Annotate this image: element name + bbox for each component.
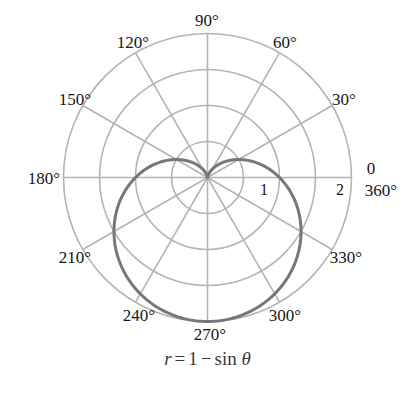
- angle-label-30deg: 30°: [332, 91, 356, 108]
- radial-label-1: 1: [260, 182, 268, 198]
- angle-label-90deg: 90°: [195, 12, 219, 29]
- grid-spoke-240: [136, 178, 208, 303]
- angle-label-60deg: 60°: [273, 34, 297, 51]
- equation-theta: θ: [241, 348, 250, 369]
- angle-label-120deg: 120°: [117, 34, 149, 51]
- grid-spoke-150: [83, 106, 208, 178]
- equation-minus: −: [198, 348, 215, 369]
- grid-spoke-210: [83, 178, 208, 250]
- grid-spoke-300: [208, 178, 280, 303]
- angle-label-330deg: 330°: [330, 249, 362, 266]
- angle-label-240deg: 240°: [123, 307, 155, 324]
- angle-label-270deg: 270°: [194, 326, 226, 343]
- equation-equals: =: [172, 348, 189, 369]
- equation-label: r=1−sin θ: [0, 348, 415, 370]
- grid-spoke-30: [208, 106, 333, 178]
- equation-lhs: r: [164, 348, 171, 369]
- grid-spoke-330: [208, 178, 333, 250]
- angle-label-210deg: 210°: [59, 249, 91, 266]
- angle-label-300deg: 300°: [269, 307, 301, 324]
- equation-constant: 1: [188, 348, 198, 369]
- angle-label-180deg: 180°: [28, 170, 60, 187]
- angle-label-360deg: 360°: [365, 182, 397, 199]
- polar-plot-figure: 90°120°60°150°30°180°0360°210°330°240°30…: [0, 0, 415, 411]
- angle-label-0: 0: [367, 160, 376, 177]
- radial-label-2: 2: [336, 182, 344, 198]
- equation-sin: sin: [215, 348, 237, 369]
- angle-label-150deg: 150°: [59, 91, 91, 108]
